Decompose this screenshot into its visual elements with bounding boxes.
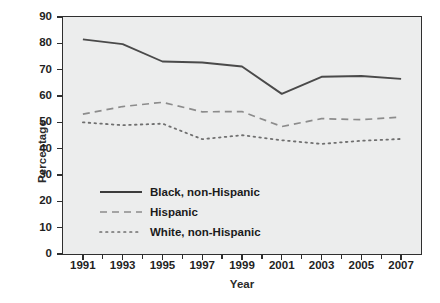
- x-tick-mark-minor: [142, 255, 143, 259]
- y-axis-title: Percentage: [28, 0, 56, 303]
- x-tick-mark: [241, 255, 242, 260]
- x-tick-mark-minor: [182, 255, 183, 259]
- legend-item-hispanic: Hispanic: [98, 202, 328, 222]
- y-tick-label: 50: [8, 115, 52, 127]
- chart-figure: Percentage 0102030405060708090 199119931…: [0, 0, 440, 303]
- x-tick-mark: [321, 255, 322, 260]
- y-tick-label: 0: [8, 247, 52, 259]
- x-tick-mark: [281, 255, 282, 260]
- y-tick-label: 70: [8, 63, 52, 75]
- x-tick-mark-minor: [301, 255, 302, 259]
- x-tick-mark-minor: [221, 255, 222, 259]
- x-tick-label: 1991: [60, 259, 106, 271]
- x-tick-label: 2005: [338, 259, 384, 271]
- x-tick-mark: [361, 255, 362, 260]
- series-line-2: [83, 122, 401, 144]
- x-tick-label: 2003: [299, 259, 345, 271]
- y-tick-label: 90: [8, 10, 52, 22]
- x-tick-label: 1997: [179, 259, 225, 271]
- x-tick-label: 2007: [378, 259, 424, 271]
- y-tick-label: 40: [8, 142, 52, 154]
- x-tick-mark: [400, 255, 401, 260]
- x-tick-mark: [82, 255, 83, 260]
- y-tick-label: 20: [8, 194, 52, 206]
- series-line-0: [83, 39, 401, 94]
- x-tick-label: 2001: [259, 259, 305, 271]
- legend-label-1: Hispanic: [146, 206, 198, 218]
- x-tick-mark: [202, 255, 203, 260]
- x-tick-mark: [162, 255, 163, 260]
- legend: Black, non-Hispanic Hispanic White, non-…: [98, 182, 328, 242]
- series-line-1: [83, 102, 401, 126]
- x-tick-label: 1993: [100, 259, 146, 271]
- legend-label-0: Black, non-Hispanic: [146, 186, 260, 198]
- legend-item-white-non-hispanic: White, non-Hispanic: [98, 222, 328, 242]
- x-tick-mark: [122, 255, 123, 260]
- legend-key-solid-line-icon: [98, 185, 146, 199]
- y-tick-label: 60: [8, 89, 52, 101]
- x-tick-label: 1995: [139, 259, 185, 271]
- x-tick-label: 1999: [219, 259, 265, 271]
- x-tick-mark-minor: [102, 255, 103, 259]
- legend-label-2: White, non-Hispanic: [146, 226, 261, 238]
- x-axis-title: Year: [62, 278, 422, 290]
- legend-key-dotted-line-icon: [98, 225, 146, 239]
- y-tick-label: 80: [8, 36, 52, 48]
- legend-item-black-non-hispanic: Black, non-Hispanic: [98, 182, 328, 202]
- x-tick-mark-minor: [261, 255, 262, 259]
- x-tick-mark-minor: [381, 255, 382, 259]
- y-tick-label: 30: [8, 168, 52, 180]
- y-tick-label: 10: [8, 221, 52, 233]
- legend-key-dashed-line-icon: [98, 205, 146, 219]
- x-tick-mark-minor: [341, 255, 342, 259]
